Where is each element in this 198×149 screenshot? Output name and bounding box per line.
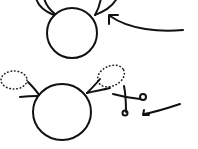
diagram-canvas [0,0,198,149]
head-circle-2 [33,84,91,140]
left-ear-dotted [1,71,27,89]
panel-before [36,0,183,58]
arrow-icon [109,15,183,31]
head-circle [47,8,97,58]
arrow-icon-2 [143,104,180,115]
scissors-icon [113,86,146,116]
panel-after [1,61,180,140]
right-ear-dotted [94,61,128,91]
